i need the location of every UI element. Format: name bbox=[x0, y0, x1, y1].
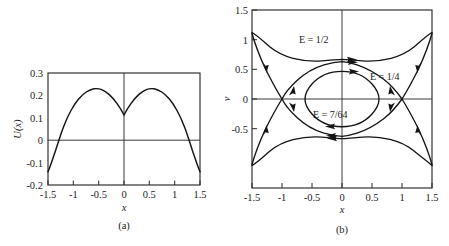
panel-a-x-ticks bbox=[48, 181, 200, 186]
panel-b-annotation-E-half: E = 1/2 bbox=[299, 34, 329, 45]
panel-a-ytick-3: 0 bbox=[38, 135, 43, 146]
panel-b-ytick-4: -0.5 bbox=[231, 124, 248, 135]
panel-b-annotation-E-quarter: E = 1/4 bbox=[370, 71, 400, 82]
panel-b-xtick-2: -0.5 bbox=[304, 192, 321, 203]
panel-a-y-axis-title: U(x) bbox=[12, 119, 24, 139]
panel-b-ytick-1: 1 bbox=[243, 35, 248, 46]
panel-a-ytick-2: 0.1 bbox=[30, 113, 43, 124]
panel-b-xtick-1: -1 bbox=[278, 192, 287, 203]
panel-b-arrow-right-separatrix-out bbox=[388, 103, 395, 113]
panel-a-ytick-0: 0.3 bbox=[30, 68, 43, 79]
panel-b-xtick-4: 0.5 bbox=[365, 192, 378, 203]
panel-b-svg: E = 1/2 E = 1/4 E = 7/64 1.5 1 0.5 0 -0.… bbox=[225, 0, 449, 246]
figure-container: 0.3 0.2 0.1 0 -0.1 -0.2 U(x) -1.5 -1 -0.… bbox=[0, 0, 449, 246]
panel-a-xtick-0: -1.5 bbox=[40, 189, 57, 200]
panel-b-caption: (b) bbox=[336, 224, 349, 236]
panel-b-y-ticks bbox=[252, 10, 257, 129]
panel-b-ytick-0: 1.5 bbox=[235, 5, 248, 16]
panel-a-xtick-5: 1 bbox=[172, 189, 177, 200]
panel-a-ytick-4: -0.1 bbox=[26, 158, 43, 169]
panel-a-xtick-2: -0.5 bbox=[90, 189, 107, 200]
panel-a-xtick-1: -1 bbox=[69, 189, 78, 200]
panel-a-xtick-3: 0 bbox=[121, 189, 126, 200]
panel-b-xtick-6: 1.5 bbox=[425, 192, 438, 203]
panel-a-caption: (a) bbox=[118, 220, 130, 232]
panel-b-arrow-right-arm-upper bbox=[415, 63, 421, 74]
panel-b-phase-portrait: E = 1/2 E = 1/4 E = 7/64 1.5 1 0.5 0 -0.… bbox=[225, 0, 449, 246]
panel-b-y-axis-title: v bbox=[225, 96, 232, 101]
panel-b-xtick-0: -1.5 bbox=[244, 192, 261, 203]
panel-a-svg: 0.3 0.2 0.1 0 -0.1 -0.2 U(x) -1.5 -1 -0.… bbox=[0, 0, 225, 246]
panel-b-arrow-right-separatrix-in bbox=[388, 86, 395, 96]
panel-b-ytick-3: 0 bbox=[243, 94, 248, 105]
panel-b-xtick-5: 1 bbox=[399, 192, 404, 203]
panel-a-xtick-4: 0.5 bbox=[143, 189, 156, 200]
panel-b-xtick-3: 0 bbox=[339, 192, 344, 203]
panel-b-arrow-left-arm-upper bbox=[263, 63, 269, 74]
panel-b-arrow-right-arm-lower bbox=[415, 125, 421, 136]
panel-b-x-axis-title: x bbox=[339, 204, 345, 215]
panel-b-arrow-left-arm-lower bbox=[263, 125, 269, 136]
panel-a-ytick-1: 0.2 bbox=[30, 90, 43, 101]
panel-a-potential: 0.3 0.2 0.1 0 -0.1 -0.2 U(x) -1.5 -1 -0.… bbox=[0, 0, 225, 246]
panel-a-x-axis-title: x bbox=[121, 202, 127, 213]
panel-b-ytick-2: 0.5 bbox=[235, 64, 248, 75]
panel-a-xtick-6: 1.5 bbox=[193, 189, 206, 200]
panel-b-x-ticks bbox=[252, 183, 432, 188]
panel-b-annotation-E-7-64: E = 7/64 bbox=[313, 109, 348, 120]
